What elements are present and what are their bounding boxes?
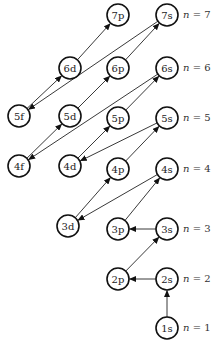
orbital-node-7p: 7p	[107, 4, 129, 26]
orbital-label: 6s	[161, 63, 173, 74]
orbital-node-2p: 2p	[107, 268, 129, 290]
orbital-node-4p: 4p	[107, 158, 129, 180]
orbital-node-7s: 7s	[156, 4, 178, 26]
orbital-node-6p: 6p	[107, 57, 129, 79]
orbital-node-4s: 4s	[156, 158, 178, 180]
shell-level-label: n = 4	[183, 163, 211, 174]
orbital-label: 7s	[161, 10, 173, 21]
orbital-node-3p: 3p	[107, 218, 129, 240]
orbital-node-3s: 3s	[156, 218, 178, 240]
orbital-label: 1s	[161, 323, 173, 334]
arrow-4s-to-3d	[78, 174, 158, 220]
shell-level-label: n = 6	[183, 62, 211, 73]
arrow-4d-to-5p	[78, 126, 110, 158]
orbital-label: 5s	[161, 113, 173, 124]
orbital-node-3d: 3d	[57, 215, 79, 237]
orbital-label: 6d	[64, 63, 77, 74]
arrow-4p-to-5s	[126, 126, 159, 161]
orbitals-layer: 1s2s2p3s3p3d4s4p4d4f5s5p5d5f6s6p6d7s7p	[8, 4, 178, 339]
shell-level-label: n = 2	[183, 273, 211, 284]
arrow-6p-to-7s	[125, 23, 159, 59]
orbital-label: 4f	[14, 161, 25, 172]
orbital-label: 2s	[161, 274, 173, 285]
orbital-label: 4s	[161, 164, 173, 175]
shell-level-label: n = 7	[183, 9, 211, 20]
arrow-6s-to-4f	[29, 74, 158, 160]
orbital-node-1s: 1s	[156, 317, 178, 339]
shell-labels-layer: n = 7n = 6n = 5n = 4n = 3n = 2n = 1	[183, 9, 211, 333]
orbital-label: 5f	[14, 111, 25, 122]
orbital-label: 2p	[112, 274, 125, 285]
orbital-node-5p: 5p	[107, 107, 129, 129]
orbital-node-5d: 5d	[59, 105, 81, 127]
orbital-label: 3s	[161, 224, 173, 235]
arrow-5f-to-6d	[27, 76, 62, 109]
arrow-3p-to-4s	[125, 178, 160, 221]
orbital-node-5s: 5s	[156, 107, 178, 129]
orbital-node-4f: 4f	[8, 155, 30, 177]
orbital-label: 5d	[64, 111, 77, 122]
orbital-node-6d: 6d	[59, 57, 81, 79]
orbital-label: 6p	[112, 63, 125, 74]
arrow-7s-to-5f	[28, 21, 157, 109]
orbital-label: 4d	[64, 161, 77, 172]
orbital-label: 7p	[112, 10, 125, 21]
arrow-2p-to-3s	[126, 237, 159, 271]
orbital-label: 4p	[112, 164, 125, 175]
orbital-label: 3d	[62, 221, 75, 232]
arrow-5p-to-6s	[126, 76, 159, 110]
arrows-layer	[27, 21, 167, 317]
arrow-6d-to-7p	[77, 24, 110, 60]
shell-level-label: n = 5	[183, 112, 211, 123]
orbital-node-2s: 2s	[156, 268, 178, 290]
aufbau-diagram: 1s2s2p3s3p3d4s4p4d4f5s5p5d5f6s6p6d7s7p n…	[0, 0, 211, 343]
shell-level-label: n = 1	[183, 322, 211, 333]
orbital-label: 3p	[112, 224, 125, 235]
orbital-label: 5p	[112, 113, 125, 124]
orbital-node-4d: 4d	[59, 155, 81, 177]
shell-level-label: n = 3	[183, 223, 211, 234]
orbital-node-5f: 5f	[8, 105, 30, 127]
arrow-5d-to-6p	[78, 76, 110, 108]
orbital-node-6s: 6s	[156, 57, 178, 79]
